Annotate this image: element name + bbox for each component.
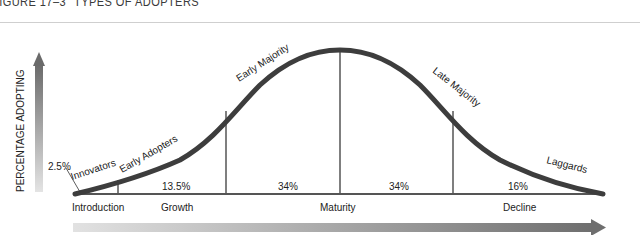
adoption-bell-curve [75,50,603,194]
percent-innovators: 2.5% [48,161,71,172]
stage-decline: Decline [503,202,537,213]
stage-growth: Growth [161,202,193,213]
y-axis-arrow [33,52,45,192]
y-axis-label: PERCENTAGE ADOPTING [15,69,26,192]
label-laggards: Laggards [546,154,589,175]
percent-laggards: 16% [508,181,528,192]
stage-introduction: Introduction [72,202,124,213]
time-axis-arrow [73,219,606,235]
label-innovators: Innovators [69,157,117,182]
stage-maturity: Maturity [320,202,356,213]
label-early-adopters: Early Adopters [118,133,180,175]
adopter-curve-diagram: PERCENTAGE ADOPTING 2.5% Innovators Earl… [0,0,640,235]
percent-late-majority: 34% [389,181,409,192]
percent-early-majority: 34% [278,181,298,192]
label-early-majority: Early Majority [234,41,291,83]
percent-early-adopters: 13.5% [162,181,190,192]
